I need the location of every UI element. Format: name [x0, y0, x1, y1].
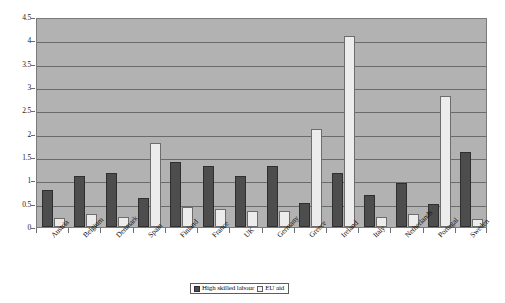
bar-high-skilled-labour: [203, 166, 214, 227]
bar-eu-aid: [344, 36, 355, 227]
bar-high-skilled-labour: [74, 176, 85, 227]
legend-label: High skilled labour: [202, 285, 254, 292]
bar-high-skilled-labour: [332, 173, 343, 227]
bar-group: [456, 19, 487, 227]
legend-swatch-icon: [194, 286, 200, 292]
bar-high-skilled-labour: [170, 162, 181, 227]
bar-group: [391, 19, 423, 227]
bar-high-skilled-labour: [460, 152, 471, 227]
y-axis-tick-label: 0.5: [0, 201, 31, 209]
y-axis-tick-label: 2.5: [0, 108, 31, 116]
plot-area: [36, 18, 487, 228]
y-axis-tick: [31, 111, 35, 112]
bar-high-skilled-labour: [396, 183, 407, 227]
y-axis-tick: [31, 181, 35, 182]
y-axis-tick-label: 3: [0, 84, 31, 92]
y-axis-tick: [31, 18, 35, 19]
y-axis-tick: [31, 65, 35, 66]
legend-label: EU aid: [265, 285, 284, 292]
legend-item-eu-aid: EU aid: [257, 285, 284, 292]
bar-high-skilled-labour: [235, 176, 246, 227]
y-axis-tick: [31, 228, 35, 229]
y-axis-tick-label: 4.5: [0, 14, 31, 22]
y-axis-tick: [31, 205, 35, 206]
bar-group: [263, 19, 295, 227]
y-axis: 00.511.522.533.544.5: [0, 0, 31, 303]
bar-group: [134, 19, 166, 227]
chart-legend: High skilled labour EU aid: [190, 283, 289, 294]
bar-chart: 00.511.522.533.544.5 AustriaBelgiumDenma…: [0, 0, 505, 303]
legend-swatch-icon: [257, 286, 263, 292]
legend-item-high-skilled-labour: High skilled labour: [194, 285, 254, 292]
y-axis-tick-label: 0: [0, 224, 31, 232]
y-axis-tick: [31, 88, 35, 89]
y-axis-tick-label: 1.5: [0, 154, 31, 162]
y-axis-tick: [31, 41, 35, 42]
bar-high-skilled-labour: [299, 203, 310, 227]
y-axis-tick-label: 4: [0, 38, 31, 46]
bar-group: [327, 19, 359, 227]
bar-high-skilled-labour: [267, 166, 278, 227]
bar-group: [37, 19, 69, 227]
bar-group: [230, 19, 262, 227]
y-axis-tick-label: 3.5: [0, 61, 31, 69]
x-axis-labels: AustriaBelgiumDenmarkSpainFinlandFranceU…: [36, 233, 496, 278]
y-axis-tick: [31, 135, 35, 136]
bar-group: [166, 19, 198, 227]
bar-high-skilled-labour: [106, 173, 117, 227]
bar-group: [424, 19, 456, 227]
bar-eu-aid: [311, 129, 322, 227]
bar-group: [101, 19, 133, 227]
y-axis-tick-label: 1: [0, 178, 31, 186]
bar-high-skilled-labour: [42, 190, 53, 227]
bar-high-skilled-labour: [138, 198, 149, 227]
y-axis-tick: [31, 158, 35, 159]
bar-eu-aid: [150, 143, 161, 227]
bar-group: [295, 19, 327, 227]
y-axis-tick-label: 2: [0, 131, 31, 139]
bar-group: [69, 19, 101, 227]
bar-eu-aid: [440, 96, 451, 227]
bar-group: [198, 19, 230, 227]
bars-layer: [37, 19, 486, 227]
bar-group: [359, 19, 391, 227]
bar-high-skilled-labour: [364, 195, 375, 227]
